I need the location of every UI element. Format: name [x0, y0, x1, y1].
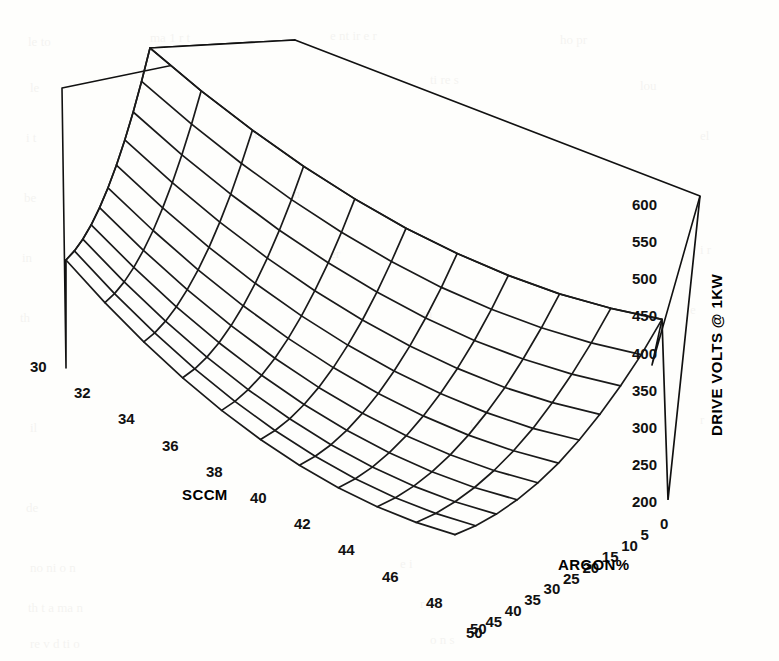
y-axis-tick-labels: 3032343638404244464850 [30, 358, 487, 637]
y-tick-40: 40 [250, 489, 267, 506]
surface-plot-3d: 600550500450400350300250200 303234363840… [0, 0, 779, 661]
y-tick-34: 34 [118, 410, 135, 427]
y-tick-36: 36 [162, 437, 179, 454]
mesh-line-sccm [91, 225, 517, 500]
z-tick-400: 400 [632, 345, 657, 362]
y-tick-44: 44 [338, 541, 355, 558]
x-tick-35: 35 [524, 591, 541, 608]
mesh-line-argon [377, 294, 559, 507]
x-tick-30: 30 [544, 580, 561, 597]
x-tick-5: 5 [641, 526, 649, 543]
z-tick-350: 350 [632, 382, 657, 399]
z-tick-500: 500 [632, 270, 657, 287]
x-tick-10: 10 [621, 537, 638, 554]
x-tick-50: 50 [466, 624, 483, 641]
mesh-line-argon [338, 275, 508, 487]
y-tick-48: 48 [426, 594, 443, 611]
z-axis-title: DRIVE VOLTS @ 1KW [708, 274, 725, 436]
x-tick-40: 40 [505, 602, 522, 619]
z-tick-450: 450 [632, 307, 657, 324]
x-axis-title: ARGON% [558, 556, 630, 573]
y-tick-38: 38 [206, 463, 223, 480]
back-wall-right [150, 40, 700, 365]
z-tick-250: 250 [632, 456, 657, 473]
y-tick-30: 30 [30, 358, 47, 375]
y-axis-title: SCCM [182, 486, 228, 503]
y-tick-32: 32 [74, 384, 91, 401]
z-tick-200: 200 [632, 493, 657, 510]
x-axis-tick-labels: 05101520253035404550 [466, 515, 668, 641]
z-axis-tick-labels: 600550500450400350300250200 [632, 196, 657, 510]
x-tick-45: 45 [485, 613, 502, 630]
x-tick-0: 0 [660, 515, 668, 532]
z-tick-600: 600 [632, 196, 657, 213]
y-tick-42: 42 [294, 515, 311, 532]
z-tick-300: 300 [632, 419, 657, 436]
mesh-line-argon [299, 254, 457, 466]
z-tick-550: 550 [632, 233, 657, 250]
y-tick-46: 46 [382, 568, 399, 585]
